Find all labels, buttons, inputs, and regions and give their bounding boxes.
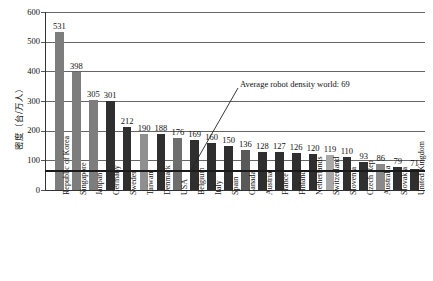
bar-value-label: 531 — [46, 22, 72, 31]
y-tick-label-100: 100 — [15, 156, 40, 165]
x-axis-label: Janpan — [96, 173, 104, 195]
average-reference-line — [45, 170, 425, 172]
bar-value-label: 398 — [63, 62, 89, 71]
y-tick-mark-0 — [41, 190, 45, 191]
x-axis-label: Netherlands — [316, 156, 324, 195]
x-axis-label: Republic of Korea — [63, 136, 71, 195]
gridline-400 — [45, 71, 425, 72]
gridline-500 — [45, 42, 425, 43]
y-tick-label-600: 600 — [15, 8, 40, 17]
y-tick-label-500: 500 — [15, 37, 40, 46]
average-annotation-label: Average robot density world: 69 — [240, 79, 350, 89]
y-tick-mark-500 — [41, 42, 45, 43]
x-axis-label: Canada — [249, 171, 257, 195]
y-tick-label-0: 0 — [15, 186, 40, 195]
x-axis-label: Sweden — [130, 170, 138, 195]
x-axis-label: USA — [181, 179, 189, 195]
y-tick-mark-300 — [41, 101, 45, 102]
x-axis-label: Belgium — [198, 167, 206, 195]
bar-value-label: 301 — [97, 91, 123, 100]
gridline-300 — [45, 101, 425, 102]
y-axis-title: 密度（台/万人） — [12, 84, 24, 150]
x-axis-label: Czech Rep — [367, 160, 375, 195]
gridline-200 — [45, 131, 425, 132]
y-tick-mark-400 — [41, 71, 45, 72]
y-tick-mark-200 — [41, 131, 45, 132]
x-axis-label: Finland — [299, 171, 307, 195]
x-axis-label: Taiwan — [147, 172, 155, 195]
x-axis-label: France — [282, 173, 290, 195]
y-axis-line — [45, 12, 46, 191]
x-axis-label: Switzerland — [333, 157, 341, 195]
gridline-600 — [45, 12, 425, 13]
robot-density-bar-chart: 密度（台/万人） 0100200300400500600 53139830530… — [0, 0, 433, 281]
y-tick-label-400: 400 — [15, 67, 40, 76]
y-tick-mark-600 — [41, 12, 45, 13]
y-tick-label-300: 300 — [15, 97, 40, 106]
y-tick-label-200: 200 — [15, 126, 40, 135]
y-tick-mark-100 — [41, 160, 45, 161]
x-axis-label: Italy — [215, 180, 223, 195]
x-axis-label: United Kingdom — [418, 141, 426, 195]
x-axis-label: Spain — [232, 177, 240, 195]
x-axis-label: Singapore — [80, 163, 88, 195]
x-axis-label: Austria — [266, 171, 274, 195]
